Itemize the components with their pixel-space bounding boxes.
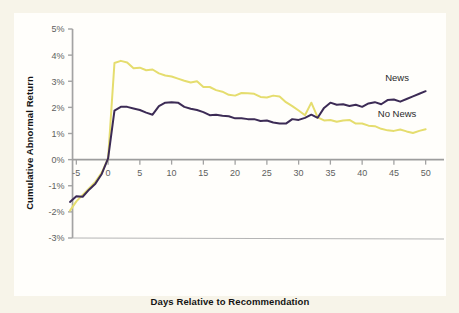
series-layer [70,61,426,211]
y-tick-label: 4% [52,51,65,61]
figure-canvas: -3%-2%-1%0%1%2%3%4%5%-505101520253035404… [0,0,459,313]
x-tick-label: 5 [137,168,142,178]
x-tick-label: 40 [357,168,367,178]
y-tick-label: 3% [52,77,65,87]
x-axis-title: Days Relative to Recommendation [14,296,446,307]
series-annotation-news: News [385,72,409,83]
x-tick-label: 35 [325,168,335,178]
y-tick-label: 1% [52,129,65,139]
series-line-no-news [70,91,426,202]
x-tick-label: 45 [389,168,399,178]
axis-layer: -3%-2%-1%0%1%2%3%4%5%-505101520253035404… [49,24,444,243]
chart-panel: -3%-2%-1%0%1%2%3%4%5%-505101520253035404… [14,13,446,296]
y-tick-label: 5% [52,24,65,34]
x-tick-label: 10 [167,168,177,178]
y-tick-label: -2% [49,207,65,217]
x-tick-label: 25 [262,168,272,178]
x-tick-label: -5 [72,168,80,178]
series-annotation-no-news: No News [378,108,417,119]
y-tick-label: -3% [49,233,65,243]
y-tick-label: 2% [52,103,65,113]
y-axis-title-text: Cumulative Abnormal Return [24,63,35,223]
y-tick-label: 0% [52,155,65,165]
annotation-layer: NewsNo News [378,72,417,118]
series-line-news [70,61,426,211]
x-tick-label: 15 [198,168,208,178]
x-tick-label: 50 [421,168,431,178]
x-tick-label: 20 [230,168,240,178]
x-tick-label: 0 [106,168,111,178]
y-tick-label: -1% [49,181,65,191]
cumulative-abnormal-return-line-chart: -3%-2%-1%0%1%2%3%4%5%-505101520253035404… [14,13,446,296]
x-tick-label: 30 [294,168,304,178]
